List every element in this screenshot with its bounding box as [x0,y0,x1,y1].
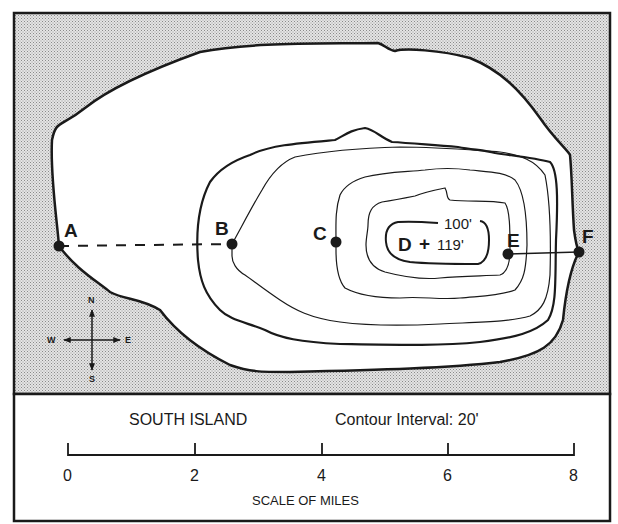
point-f-label: F [582,226,594,247]
point-b-marker [227,239,238,250]
point-e-label: E [507,230,520,251]
scale-tick-4: 4 [317,467,326,484]
point-b-label: B [215,218,229,239]
contour-100-label: 100' [444,215,472,232]
compass-south-label: S [89,374,95,384]
scale-tick-8: 8 [569,467,578,484]
topographic-map-diagram: A B C D + 119' 100' E F N S E W SOUTH IS… [0,0,618,524]
scale-tick-0: 0 [63,467,72,484]
compass-west-label: W [47,335,56,345]
summit-elevation-label: 119' [437,236,464,253]
scale-tick-6: 6 [443,467,452,484]
island-name-title: SOUTH ISLAND [129,411,247,428]
point-d-label: D [398,234,412,255]
point-c-marker [331,237,342,248]
scale-title: SCALE OF MILES [252,493,359,508]
point-a-marker [54,241,65,252]
point-a-label: A [64,220,78,241]
compass-east-label: E [125,335,131,345]
scale-tick-2: 2 [190,467,199,484]
compass-north-label: N [88,295,95,305]
point-f-marker [574,247,585,258]
summit-marker: + [419,233,430,254]
contour-interval-label: Contour Interval: 20' [335,411,479,428]
point-c-label: C [313,223,327,244]
